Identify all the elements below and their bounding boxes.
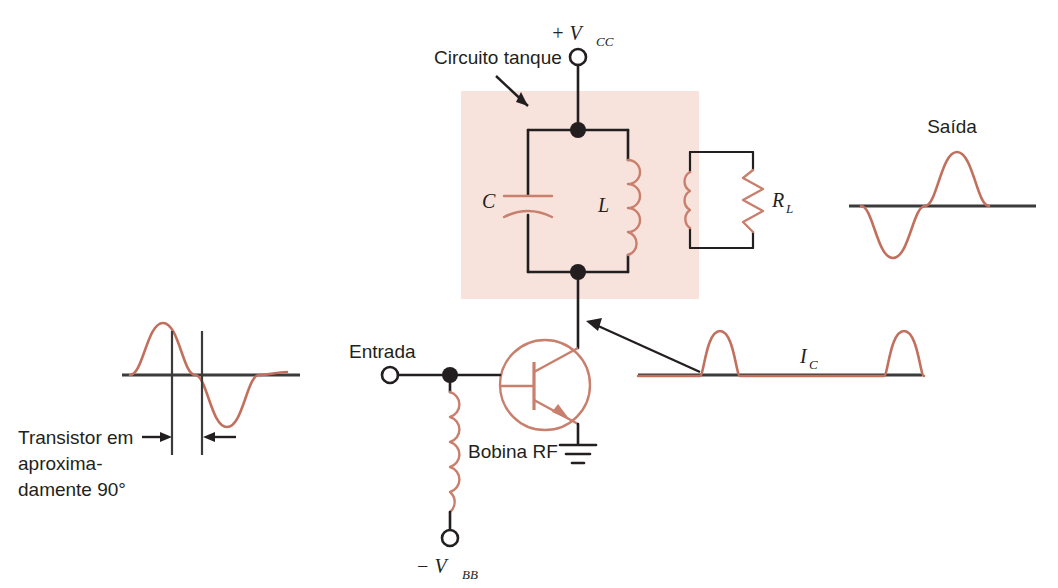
ic-pulse-curve xyxy=(638,331,924,376)
tank-circuit-label: Circuito tanque xyxy=(434,47,562,68)
vbb-subscript: BB xyxy=(462,567,478,582)
rf-choke-coil xyxy=(450,392,459,512)
tank-top-node xyxy=(570,122,586,138)
collector-current-chart: I C xyxy=(586,318,924,376)
output-waveform-chart: Saída xyxy=(849,116,1036,258)
inductor-label: L xyxy=(597,194,609,216)
load-resistor-zigzag xyxy=(743,170,763,232)
vbb-terminal[interactable] xyxy=(442,530,458,546)
conduction-note-line-2: aproxima- xyxy=(18,453,102,474)
rf-coil-label: Bobina RF xyxy=(468,441,558,462)
input-terminal[interactable] xyxy=(382,367,398,383)
input-section: Entrada xyxy=(349,341,500,383)
ic-subscript: C xyxy=(809,357,818,372)
conduction-angle-annotation: Transistor em aproxima- damente 90° xyxy=(18,427,236,500)
conduction-note-line-3: damente 90° xyxy=(18,479,126,500)
vcc-subscript: CC xyxy=(596,34,614,49)
vcc-terminal[interactable] xyxy=(570,49,586,65)
secondary-load-circuit: R L xyxy=(685,152,794,248)
annotation-arrow-right xyxy=(203,432,236,442)
load-resistor-subscript: L xyxy=(785,201,793,216)
conduction-note-line-1: Transistor em xyxy=(18,427,133,448)
transistor-collector-lead xyxy=(534,348,578,372)
vbb-label: − V xyxy=(416,555,449,577)
transistor-emitter-arrow xyxy=(552,404,570,420)
input-label: Entrada xyxy=(349,341,416,362)
class-c-amplifier-figure: Circuito tanque + V CC C L xyxy=(0,0,1058,588)
ground-symbol xyxy=(560,445,596,463)
rf-choke: − V BB Bobina RF xyxy=(416,375,558,582)
circuit-diagram-canvas: Circuito tanque + V CC C L xyxy=(0,0,1058,588)
ic-label: I xyxy=(799,345,808,367)
ic-pointer-arrow xyxy=(586,318,700,372)
npn-transistor xyxy=(500,340,590,444)
output-label: Saída xyxy=(927,116,977,137)
annotation-arrow-left xyxy=(142,432,172,442)
capacitor-label: C xyxy=(482,190,496,212)
vcc-label: + V xyxy=(551,22,584,44)
load-resistor-label: R xyxy=(771,189,784,211)
